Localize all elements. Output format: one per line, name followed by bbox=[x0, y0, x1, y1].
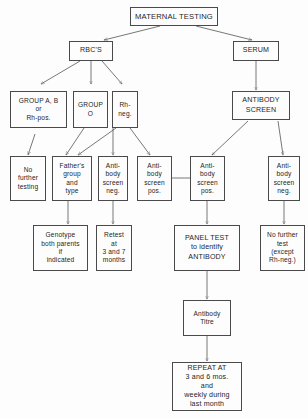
node-repeat-at: REPEAT AT 3 and 6 mos. and weekly during… bbox=[172, 362, 242, 411]
node-antibody-screen: ANTIBODY SCREEN bbox=[232, 91, 290, 120]
link-rbcs-to-rh-neg bbox=[102, 61, 122, 84]
node-maternal-testing: MATERNAL TESTING bbox=[130, 7, 218, 26]
node-group-a-b: GROUP A, B or Rh-pos. bbox=[10, 91, 67, 128]
link-antibody-screen-to-ab-neg bbox=[278, 121, 283, 155]
node-antibody-screen-neg-1: Anti- body screen neg. bbox=[98, 156, 128, 201]
flowchart-connectors bbox=[0, 0, 308, 418]
node-antibody-screen-pos-2: Anti- body screen pos. bbox=[190, 156, 225, 201]
node-no-further-testing: No further testing bbox=[10, 156, 46, 201]
link-group-ab-to-no-further-testing bbox=[28, 134, 35, 155]
node-antibody-screen-pos-1: Anti- body screen pos. bbox=[137, 156, 172, 201]
link-maternal-to-serum bbox=[196, 26, 252, 40]
node-retest: Retest at 3 and 7 months bbox=[96, 225, 132, 271]
link-group-o-to-fathers-group bbox=[66, 128, 84, 155]
node-serum: SERUM bbox=[233, 41, 279, 61]
link-antibody-screen-to-ab-pos bbox=[212, 121, 248, 155]
node-antibody-titre: Antibody Titre bbox=[183, 300, 231, 336]
node-antibody-screen-neg-2: Anti- body screen neg. bbox=[268, 156, 300, 201]
node-group-o: GROUP O bbox=[73, 91, 108, 128]
node-panel-test: PANEL TEST to identify ANTIBODY bbox=[174, 225, 240, 271]
node-fathers-group-and-type: Father's group and type bbox=[52, 156, 92, 201]
node-rh-neg: Rh- neg. bbox=[112, 91, 138, 128]
link-rh-neg-to-ab-screen-pos bbox=[130, 128, 150, 155]
node-rbcs: RBC'S bbox=[69, 41, 113, 61]
link-rbcs-to-group-ab bbox=[41, 61, 80, 84]
link-maternal-to-rbcs bbox=[104, 26, 160, 40]
node-no-further-test-except: No further test (except Rh-neg.) bbox=[260, 225, 305, 271]
node-genotype-both-parents: Genotype both parents if indicated bbox=[33, 225, 88, 271]
maternal-testing-flowchart: MATERNAL TESTING RBC'S SERUM GROUP A, B … bbox=[0, 0, 308, 418]
link-rh-neg-to-fathers-group bbox=[78, 128, 116, 155]
